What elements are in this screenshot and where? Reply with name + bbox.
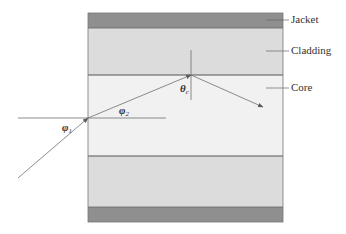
cladding-top-layer bbox=[88, 28, 283, 75]
cladding-bottom-layer bbox=[88, 156, 283, 207]
jacket-bottom-layer bbox=[88, 207, 283, 222]
angle-phi1-label: φ1 bbox=[62, 121, 72, 135]
jacket-label: Jacket bbox=[291, 13, 318, 25]
cladding-label: Cladding bbox=[291, 44, 332, 56]
fiber-optic-diagram: φ1 φ2 θc Jacket Cladding Core bbox=[0, 0, 346, 234]
incident-ray bbox=[18, 118, 88, 178]
core-label: Core bbox=[291, 81, 313, 93]
jacket-top-layer bbox=[88, 13, 283, 28]
